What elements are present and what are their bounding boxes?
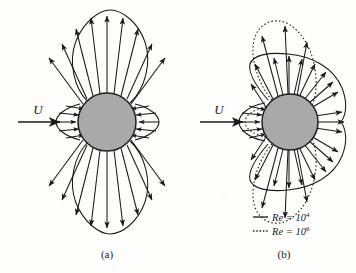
legend: Re = 104 Re = 106: [253, 211, 310, 237]
panel-b-cylinder: [262, 94, 318, 150]
panel-a-flow-label: U: [33, 102, 44, 117]
panel-b-caption: (b): [278, 248, 291, 261]
legend-label-re-1e4-text: Re = 10: [271, 212, 307, 223]
panel-b-flow-label: U: [214, 102, 225, 117]
legend-entry-re-1e6: Re = 106: [253, 225, 310, 237]
legend-label-re-1e6-text: Re = 10: [271, 226, 307, 237]
legend-entry-re-1e4: Re = 104: [253, 211, 310, 223]
panel-a-caption: (a): [101, 248, 114, 261]
legend-label-re-1e6: Re = 106: [271, 225, 310, 237]
legend-label-re-1e4: Re = 104: [271, 211, 310, 223]
panel-b: U (b): [200, 21, 346, 261]
panel-a-cylinder: [78, 93, 136, 151]
legend-label-re-1e6-exponent: 6: [306, 225, 310, 233]
legend-label-re-1e4-exponent: 4: [306, 211, 310, 219]
pressure-distribution-figure: U (a): [0, 0, 356, 273]
panel-a: U (a): [18, 10, 165, 261]
panel-a-lower-suction-lobe: [72, 141, 147, 234]
panel-a-upper-suction-lobe: [72, 10, 147, 103]
